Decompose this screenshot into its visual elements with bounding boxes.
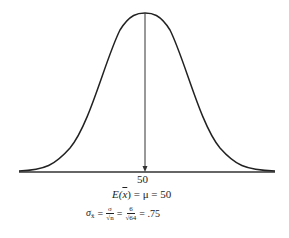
equals-1: =	[97, 208, 103, 219]
mean-tick-label: 50	[137, 173, 148, 185]
bell-curve	[19, 13, 275, 171]
mu-value: = μ = 50	[134, 188, 172, 200]
standard-error-equation: σx̄ = σ √n = 6 √64 = .75	[86, 205, 160, 222]
expected-value-lhs: E(	[112, 188, 122, 200]
std-error-result: = .75	[139, 208, 160, 219]
expected-value-rhs: )	[127, 188, 131, 200]
expected-value-equation: E(x) = μ = 50	[112, 188, 171, 200]
arrow-head-icon	[143, 166, 148, 172]
fraction-sigma-over-root-n: σ √n	[106, 205, 114, 222]
sigma-symbol: σx̄	[86, 207, 94, 220]
fraction-6-over-root-64: 6 √64	[126, 205, 137, 222]
normal-curve-diagram	[0, 0, 289, 238]
equals-2: =	[117, 208, 123, 219]
